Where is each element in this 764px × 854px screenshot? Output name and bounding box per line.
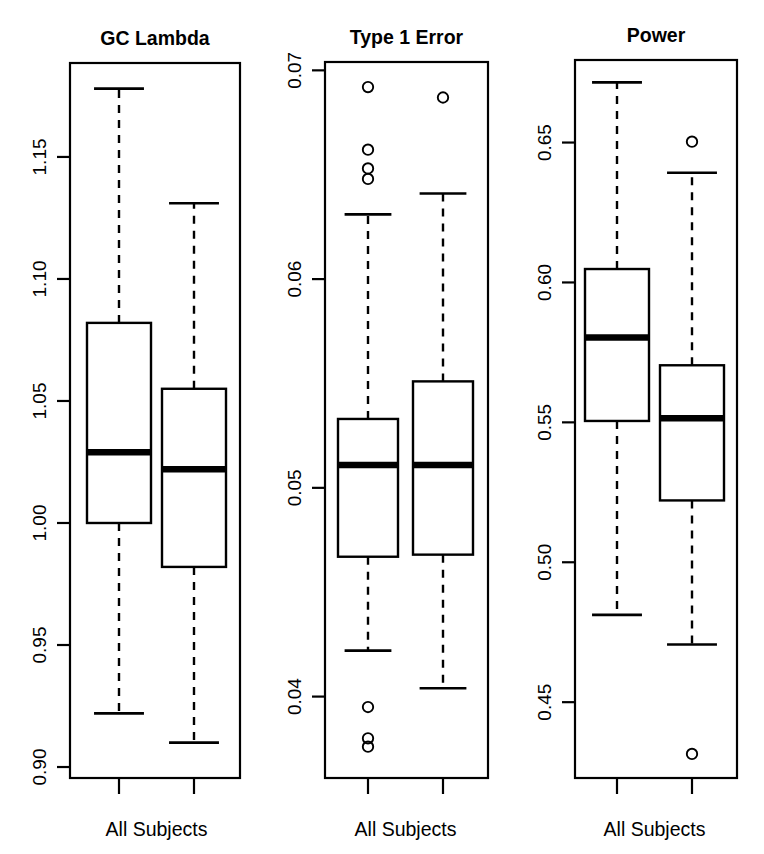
outlier-point (438, 92, 448, 102)
x-axis (368, 778, 443, 794)
y-tick-label: 0.95 (30, 627, 51, 664)
outlier-point (363, 144, 373, 154)
y-axis: 1.151.101.051.000.950.90 (30, 138, 71, 785)
panel-type-1-error: Type 1 Error0.070.060.050.04All Subjects (255, 0, 510, 854)
panel-canvas-type-1-error: Type 1 Error0.070.060.050.04All Subjects (255, 0, 510, 854)
iqr-rect (338, 419, 398, 557)
x-axis-label: All Subjects (106, 818, 208, 840)
y-tick-label: 0.60 (535, 264, 556, 301)
y-tick-label: 0.04 (285, 678, 306, 715)
y-tick-label: 1.05 (30, 382, 51, 419)
panel-power: Power0.650.600.550.500.45All Subjects (505, 0, 764, 854)
y-axis: 0.070.060.050.04 (285, 52, 326, 715)
outlier-point (363, 702, 373, 712)
iqr-rect (162, 389, 226, 567)
y-tick-label: 1.10 (30, 260, 51, 297)
outlier-point (363, 82, 373, 92)
panel-canvas-power: Power0.650.600.550.500.45All Subjects (505, 0, 764, 854)
x-axis (119, 778, 194, 794)
y-tick-label: 1.00 (30, 504, 51, 541)
y-tick-label: 0.90 (30, 749, 51, 786)
y-tick-label: 0.65 (535, 124, 556, 161)
boxplot-box (585, 82, 649, 614)
y-axis: 0.650.600.550.500.45 (535, 124, 576, 721)
x-axis-label: All Subjects (355, 818, 457, 840)
panel-canvas-gc-lambda: GC Lambda1.151.101.051.000.950.90All Sub… (0, 0, 258, 854)
y-tick-label: 0.06 (285, 261, 306, 298)
x-axis-label: All Subjects (604, 818, 706, 840)
boxplot-figure: GC Lambda1.151.101.051.000.950.90All Sub… (0, 0, 764, 854)
outlier-point (363, 163, 373, 173)
outlier-point (363, 174, 373, 184)
panel-title: Power (627, 24, 686, 46)
outlier-point (687, 749, 697, 759)
y-tick-label: 1.15 (30, 138, 51, 175)
iqr-rect (87, 323, 151, 523)
y-tick-label: 0.05 (285, 469, 306, 506)
panel-title: GC Lambda (100, 27, 210, 49)
boxplot-box (162, 203, 226, 742)
panel-gc-lambda: GC Lambda1.151.101.051.000.950.90All Sub… (0, 0, 258, 854)
x-axis (617, 778, 692, 794)
panel-title: Type 1 Error (350, 26, 464, 48)
iqr-rect (660, 365, 724, 500)
boxplot-box (660, 137, 724, 760)
y-tick-label: 0.50 (535, 544, 556, 581)
y-tick-label: 0.55 (535, 404, 556, 441)
y-tick-label: 0.45 (535, 684, 556, 721)
outlier-point (687, 137, 697, 147)
iqr-rect (585, 269, 649, 421)
y-tick-label: 0.07 (285, 52, 306, 89)
boxplot-box (338, 82, 398, 752)
boxplot-box (87, 89, 151, 714)
boxplot-box (413, 92, 473, 688)
